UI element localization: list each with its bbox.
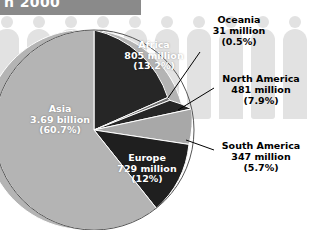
slice-label-africa: Africa 805 million (13.2%): [108, 40, 200, 72]
slice-label-north-america-amount: 481 million: [207, 84, 315, 95]
slice-label-europe-percent: (12%): [98, 174, 196, 185]
slice-callout-north-america: North America 481 million (7.9%): [207, 73, 315, 106]
slice-label-north-america-name: North America: [207, 73, 315, 84]
slice-label-africa-percent: (13.2%): [108, 61, 200, 72]
slice-label-south-america-amount: 347 million: [207, 151, 315, 162]
page-title: n 2000: [4, 0, 60, 10]
slice-label-oceania-percent: (0.5%): [193, 36, 285, 47]
slice-label-oceania-name: Oceania: [193, 14, 285, 25]
slice-callout-south-america: South America 347 million (5.7%): [207, 140, 315, 173]
slice-callout-oceania: Oceania 31 million (0.5%): [193, 14, 285, 47]
title-banner: n 2000: [0, 0, 141, 15]
chart-canvas: n 2000 Asia 3.69 billion: [0, 0, 318, 230]
slice-label-asia-percent: (60.7%): [8, 125, 112, 136]
slice-label-south-america-name: South America: [207, 140, 315, 151]
slice-label-south-america-percent: (5.7%): [207, 162, 315, 173]
slice-label-europe: Europe 729 million (12%): [98, 153, 196, 185]
slice-label-asia: Asia 3.69 billion (60.7%): [8, 104, 112, 136]
slice-label-oceania-amount: 31 million: [193, 25, 285, 36]
slice-label-north-america-percent: (7.9%): [207, 95, 315, 106]
